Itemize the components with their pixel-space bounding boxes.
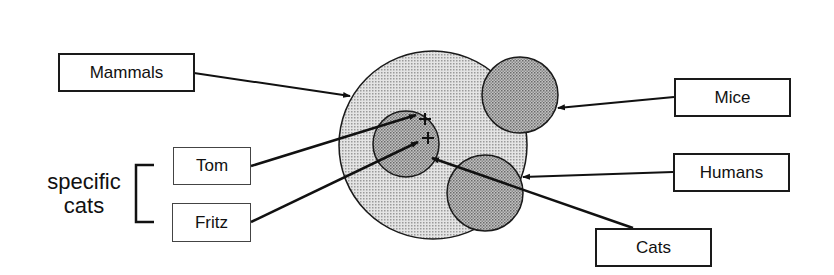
humans-label-box: Humans	[673, 153, 790, 192]
specific-cats-bracket	[136, 165, 154, 222]
mammals-label: Mammals	[90, 63, 164, 83]
cats-set-circle	[373, 111, 439, 177]
fritz-label: Fritz	[195, 213, 228, 233]
mice-arrow	[558, 97, 674, 108]
cats-label-box: Cats	[595, 228, 712, 267]
specific-cats-group-label: specific cats	[38, 170, 130, 218]
mice-set-circle	[482, 57, 558, 133]
tom-label-box: Tom	[173, 147, 251, 185]
cats-label: Cats	[636, 238, 671, 258]
mice-label: Mice	[715, 88, 751, 108]
mammals-label-box: Mammals	[58, 53, 195, 92]
humans-arrow	[523, 172, 673, 177]
specific-cats-line-1: specific	[38, 170, 130, 194]
tom-label: Tom	[196, 156, 228, 176]
fritz-label-box: Fritz	[172, 203, 251, 242]
mice-label-box: Mice	[674, 78, 791, 117]
specific-cats-line-2: cats	[38, 194, 130, 218]
mammals-arrow	[194, 73, 350, 96]
humans-label: Humans	[700, 163, 763, 183]
